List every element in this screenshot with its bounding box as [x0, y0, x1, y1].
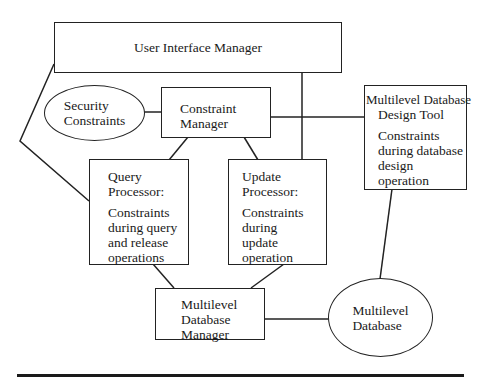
design-tool-desc-2: during database	[378, 143, 466, 158]
constraint-manager-box: Constraint Manager	[161, 87, 271, 138]
edge-design-to-db	[380, 189, 392, 279]
database-manager-label-1: Multilevel	[181, 297, 264, 312]
update-processor-desc-4: operation	[242, 250, 326, 265]
update-processor-title-1: Update	[242, 169, 326, 184]
update-processor-desc-1: Constraints	[242, 205, 326, 220]
multilevel-database-label-2: Database	[352, 318, 408, 333]
query-processor-desc-1: Constraints	[108, 205, 188, 220]
security-constraints-ellipse: Security Constraints	[44, 85, 145, 141]
update-processor-desc-3: update	[242, 235, 326, 250]
database-manager-label-2: Database	[181, 312, 264, 327]
edge-update-to-dbm	[251, 264, 284, 288]
update-processor-title-2: Processor:	[242, 184, 326, 199]
multilevel-database-ellipse: Multilevel Database	[328, 278, 433, 357]
bottom-rule-divider	[17, 374, 464, 377]
design-tool-title-1: Multilevel Database	[366, 92, 466, 107]
security-constraints-label-1: Security	[64, 98, 126, 113]
update-processor-box: Update Processor: Constraints during upd…	[228, 159, 327, 265]
query-processor-title-2: Processor:	[108, 184, 188, 199]
query-processor-desc-4: operations	[108, 250, 188, 265]
design-tool-desc-1: Constraints	[378, 128, 466, 143]
query-processor-desc-2: during query	[108, 220, 188, 235]
database-manager-box: Multilevel Database Manager	[155, 288, 265, 340]
user-interface-manager-box: User Interface Manager	[54, 22, 342, 73]
design-tool-title-2: Design Tool	[366, 107, 466, 122]
design-tool-box: Multilevel Database Design Tool Constrai…	[364, 85, 467, 190]
query-processor-title-1: Query	[108, 169, 188, 184]
edge-cm-to-update	[244, 137, 258, 160]
design-tool-desc-3: design	[378, 158, 466, 173]
user-interface-manager-label: User Interface Manager	[134, 40, 262, 55]
constraint-manager-label-2: Manager	[180, 116, 270, 131]
update-processor-desc-2: during	[242, 220, 326, 235]
security-constraints-label-2: Constraints	[64, 113, 126, 128]
query-processor-box: Query Processor: Constraints during quer…	[89, 159, 189, 265]
design-tool-desc-4: operation	[378, 173, 466, 188]
multilevel-database-label-1: Multilevel	[352, 303, 408, 318]
edge-cm-to-query	[169, 137, 188, 160]
edge-query-to-dbm	[153, 264, 174, 288]
query-processor-desc-3: and release	[108, 235, 188, 250]
database-manager-label-3: Manager	[181, 327, 264, 342]
constraint-manager-label-1: Constraint	[180, 101, 270, 116]
